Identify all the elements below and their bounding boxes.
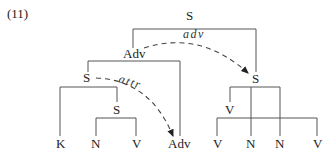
adv-dependency-arrow <box>144 43 248 73</box>
example-number: (11) <box>7 6 28 21</box>
leaf-n3: N <box>275 136 285 151</box>
leaf-n: N <box>91 136 101 151</box>
leaf-v2: V <box>213 136 223 151</box>
inner-s-node: S <box>113 102 120 117</box>
right-s-node: S <box>252 71 259 86</box>
leaf-v3: V <box>313 136 323 151</box>
leaf-v: V <box>132 136 142 151</box>
attr-arrow-label: attr <box>117 72 144 93</box>
leaf-n2: N <box>246 136 256 151</box>
syntax-tree-diagram: (11) S Adv S S S V K N V Adv V N N V adv… <box>0 0 331 154</box>
leaf-adv: Adv <box>168 136 191 151</box>
root-s-node: S <box>186 8 193 23</box>
left-s-node: S <box>83 70 90 85</box>
adv-phrase-node: Adv <box>123 46 146 61</box>
adv-arrow-label: adv <box>183 27 205 41</box>
right-v-node: V <box>225 102 235 117</box>
leaf-k: K <box>56 136 66 151</box>
